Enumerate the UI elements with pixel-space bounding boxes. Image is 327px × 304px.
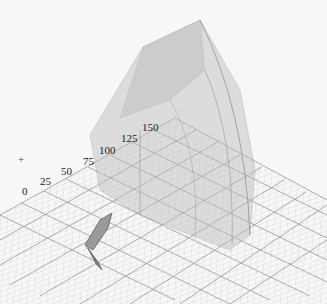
axis-tick-label: 150 [142, 122, 159, 133]
axis-tick-label: 100 [99, 145, 116, 156]
axis-tick-label: 0 [22, 186, 28, 197]
scene-canvas[interactable] [0, 0, 327, 304]
axis-tick-label: 50 [61, 166, 72, 177]
origin-marker: + [18, 153, 24, 165]
axis-tick-label: 125 [121, 133, 138, 144]
axis-tick-label: 75 [83, 156, 94, 167]
axis-tick-label: 25 [40, 176, 51, 187]
3d-viewport[interactable]: + 0 25 50 75 100 125 150 [0, 0, 327, 304]
